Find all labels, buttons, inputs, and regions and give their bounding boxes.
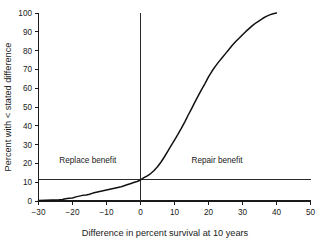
y-tick-label: 30 [23,141,33,150]
chart-background [0,0,321,242]
y-tick-label: 100 [18,9,32,18]
y-tick-label: 40 [23,122,33,131]
chart-container: −30−20−1001020304050 0102030405060708090… [0,0,321,242]
y-tick-label: 0 [27,197,32,206]
x-tick-label: 20 [204,208,214,217]
y-tick-label: 20 [23,159,33,168]
y-tick-label: 10 [23,178,33,187]
x-tick-label: 0 [138,208,143,217]
x-tick-label: −20 [66,208,80,217]
replace-benefit-label: Replace benefit [59,156,117,165]
x-tick-label: −10 [100,208,114,217]
y-tick-label: 70 [23,65,33,74]
x-tick-label: 30 [238,208,248,217]
x-tick-label: 40 [272,208,282,217]
x-tick-label-group: −30−20−1001020304050 [32,208,316,217]
y-tick-label: 90 [23,28,33,37]
y-tick-label: 80 [23,47,33,56]
cdf-line-chart: −30−20−1001020304050 0102030405060708090… [0,0,321,242]
repair-benefit-label: Repair benefit [192,156,244,165]
y-axis-title: Percent with < stated difference [3,43,13,172]
x-tick-label: 50 [306,208,316,217]
x-axis-title: Difference in percent survival at 10 yea… [82,228,249,238]
x-tick-label: 10 [170,208,180,217]
y-tick-label: 50 [23,103,33,112]
x-tick-label: −30 [32,208,46,217]
y-tick-label: 60 [23,84,33,93]
